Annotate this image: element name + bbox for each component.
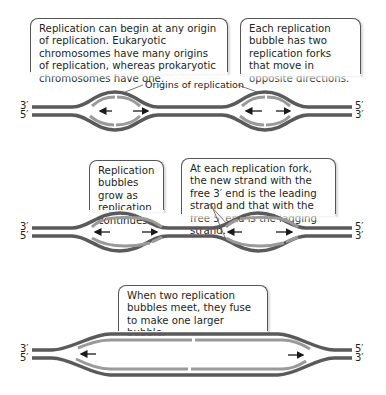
end-label: 5′ — [20, 230, 29, 241]
dna-row-1: Origins of replication 3′ 5′ 5′ 3′ — [20, 79, 364, 130]
dna-row-3: 3′ 5′ 5′ 3′ — [20, 334, 364, 375]
end-label: 3′ — [355, 109, 364, 120]
end-label: 3′ — [355, 352, 364, 363]
dna-row-2: 3′ 5′ 5′ 3′ — [20, 204, 364, 251]
end-label: 3′ — [355, 230, 364, 241]
end-label: 5′ — [20, 109, 29, 120]
replication-diagram: Origins of replication 3′ 5′ 5′ 3′ 3′ 5′… — [0, 0, 386, 395]
end-label: 5′ — [20, 352, 29, 363]
origins-label: Origins of replication — [145, 79, 244, 90]
